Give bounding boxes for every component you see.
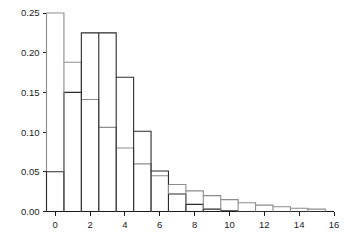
x-tick-label: 16 xyxy=(329,219,340,230)
y-tick-label: 0.10 xyxy=(21,127,40,138)
x-tick-label: 8 xyxy=(192,219,197,230)
x-tick-label: 14 xyxy=(294,219,305,230)
series-layer xyxy=(47,13,326,212)
y-axis-tick-marks xyxy=(43,13,47,212)
x-axis-tick-labels: 0246810121416 xyxy=(53,219,340,230)
x-tick-label: 10 xyxy=(224,219,235,230)
histogram-chart: 0.000.050.100.150.200.25 0246810121416 xyxy=(0,0,347,243)
y-tick-label: 0.15 xyxy=(21,87,40,98)
y-tick-label: 0.20 xyxy=(21,47,40,58)
x-tick-label: 0 xyxy=(53,219,58,230)
y-axis-tick-labels: 0.000.050.100.150.200.25 xyxy=(21,7,40,217)
histogram-outline-series-gray xyxy=(47,13,326,212)
x-tick-label: 12 xyxy=(259,219,270,230)
y-tick-label: 0.05 xyxy=(21,166,40,177)
y-tick-label: 0.25 xyxy=(21,7,40,18)
x-tick-label: 6 xyxy=(157,219,162,230)
x-tick-label: 2 xyxy=(87,219,92,230)
chart-canvas: 0.000.050.100.150.200.25 0246810121416 xyxy=(0,0,347,243)
y-tick-label: 0.00 xyxy=(21,206,40,217)
x-axis-tick-marks xyxy=(55,212,334,216)
histogram-bins-series-black xyxy=(64,33,238,212)
x-tick-label: 4 xyxy=(122,219,127,230)
